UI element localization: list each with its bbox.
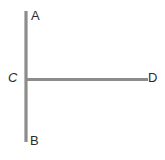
point-label-a: A (31, 9, 40, 22)
diagram-svg (0, 0, 165, 160)
point-label-d: D (148, 71, 157, 84)
point-label-b: B (30, 134, 39, 147)
geometry-diagram: A C D B (0, 0, 165, 160)
point-label-c: C (8, 71, 17, 84)
